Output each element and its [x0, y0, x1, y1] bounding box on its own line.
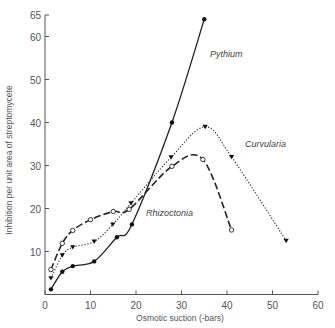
- data-point: [229, 155, 234, 159]
- data-point: [60, 270, 64, 274]
- x-tick-label: 40: [221, 300, 233, 311]
- data-point: [71, 228, 75, 232]
- data-point: [111, 209, 115, 213]
- data-point: [115, 235, 119, 239]
- data-point: [284, 239, 289, 243]
- y-tick-label: 10: [30, 247, 42, 258]
- data-point: [60, 241, 64, 245]
- data-point: [130, 222, 134, 226]
- y-tick-label: 65: [30, 10, 42, 21]
- y-tick-label: 60: [30, 32, 42, 43]
- data-point: [203, 125, 208, 129]
- data-point: [60, 253, 65, 257]
- x-tick-label: 60: [312, 300, 324, 311]
- x-tick-label: 50: [267, 300, 279, 311]
- data-point: [88, 217, 92, 221]
- data-point: [92, 259, 96, 263]
- rhizoctonia-label: Rhizoctonia: [146, 208, 193, 218]
- pythium-label: Pythium: [210, 49, 243, 59]
- y-tick-label: 40: [30, 118, 42, 129]
- x-axis-label: Osmotic suction (-bars): [136, 313, 224, 323]
- data-point: [201, 157, 205, 161]
- chart: 010203040506010203040506065 Osmotic suct…: [0, 0, 335, 328]
- series-pythium: [49, 17, 207, 291]
- x-tick-label: 20: [130, 300, 142, 311]
- data-point: [229, 228, 233, 232]
- x-tick-label: 10: [85, 300, 97, 311]
- series-lines: [48, 17, 288, 291]
- y-tick-label: 30: [30, 161, 42, 172]
- data-point: [168, 155, 173, 159]
- curvularia-label: Curvularia: [245, 139, 286, 149]
- data-point: [49, 287, 53, 291]
- data-point: [170, 164, 174, 168]
- data-point: [170, 120, 174, 124]
- data-point: [127, 207, 131, 211]
- data-point: [70, 245, 75, 249]
- y-tick-label: 50: [30, 75, 42, 86]
- x-tick-label: 0: [42, 300, 48, 311]
- x-tick-label: 30: [176, 300, 188, 311]
- data-point: [49, 267, 53, 271]
- y-tick-label: 20: [30, 204, 42, 215]
- y-axis-label: Inhibition per unit area of streptomycet…: [4, 85, 14, 235]
- data-point: [48, 276, 53, 280]
- data-point: [71, 264, 75, 268]
- data-point: [92, 240, 97, 244]
- series-rhizoctonia: [49, 155, 234, 272]
- data-point: [202, 17, 206, 21]
